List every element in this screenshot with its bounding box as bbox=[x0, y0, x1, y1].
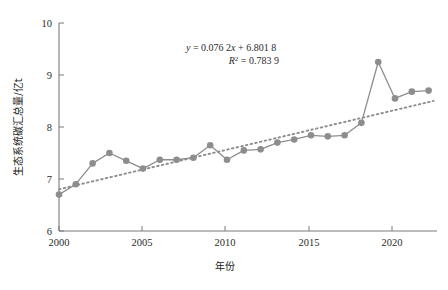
r-squared-symbol: R bbox=[228, 55, 235, 66]
data-point bbox=[140, 165, 147, 172]
y-tick-label-8: 8 bbox=[47, 122, 52, 133]
data-point bbox=[409, 88, 416, 95]
y-tick-label-9: 9 bbox=[47, 70, 52, 81]
data-point bbox=[375, 59, 382, 66]
series-line-ecosystem-carbon-sink bbox=[59, 62, 429, 195]
y-axis-ticks bbox=[59, 23, 64, 231]
r-squared-annotation: R2 = 0.783 9 bbox=[228, 55, 279, 67]
data-point bbox=[274, 139, 281, 146]
data-point bbox=[241, 147, 248, 154]
data-point bbox=[358, 120, 365, 127]
data-point bbox=[89, 160, 96, 167]
x-tick-label-2010: 2010 bbox=[215, 237, 236, 248]
x-axis-ticks bbox=[59, 226, 392, 231]
data-point bbox=[308, 132, 315, 139]
data-point bbox=[257, 146, 264, 153]
x-tick-label-2020: 2020 bbox=[382, 237, 403, 248]
y-tick-label-10: 10 bbox=[42, 18, 53, 29]
data-point bbox=[106, 150, 113, 157]
y-tick-label-6: 6 bbox=[47, 226, 52, 237]
x-axis-title: 年份 bbox=[215, 260, 235, 272]
x-tick-label-2015: 2015 bbox=[299, 237, 320, 248]
chart-container: 10 9 8 7 6 2000 2005 2010 2015 2020 年份 生… bbox=[0, 0, 448, 290]
data-point bbox=[291, 136, 298, 143]
equation-coefficient: = 0.076 2 bbox=[190, 42, 231, 53]
y-axis-title: 生态系统碳汇总量/亿t bbox=[12, 78, 24, 175]
line-chart-svg: 10 9 8 7 6 2000 2005 2010 2015 2020 年份 生… bbox=[0, 0, 448, 290]
data-point bbox=[73, 181, 80, 188]
data-point bbox=[325, 133, 332, 140]
x-tick-label-2005: 2005 bbox=[132, 237, 153, 248]
data-point bbox=[392, 95, 399, 102]
equation-intercept: + 6.801 8 bbox=[236, 42, 277, 53]
data-point bbox=[190, 154, 197, 161]
data-point bbox=[123, 158, 130, 165]
data-point bbox=[56, 191, 63, 198]
data-point bbox=[207, 142, 214, 149]
y-tick-label-7: 7 bbox=[47, 174, 52, 185]
trend-equation-annotation: y = 0.076 2x + 6.801 8 bbox=[185, 42, 276, 53]
x-tick-label-2000: 2000 bbox=[49, 237, 70, 248]
data-point bbox=[425, 87, 432, 94]
r-squared-value: = 0.783 9 bbox=[238, 55, 279, 66]
data-point bbox=[157, 156, 164, 163]
data-point bbox=[173, 156, 180, 163]
data-point bbox=[224, 156, 231, 163]
data-point bbox=[341, 132, 348, 139]
trend-line bbox=[59, 101, 434, 189]
